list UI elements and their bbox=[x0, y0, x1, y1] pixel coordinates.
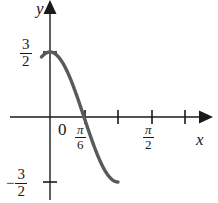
fraction-three-halves: 3 2 bbox=[20, 37, 32, 69]
fraction-numerator: π bbox=[143, 123, 154, 138]
y-tick-label-negative-three-halves: − 3 2 bbox=[6, 167, 27, 199]
fraction-denominator: 2 bbox=[15, 184, 27, 200]
minus-sign: − bbox=[6, 176, 14, 191]
y-axis-arrowhead bbox=[44, 0, 57, 14]
fraction-denominator: 2 bbox=[143, 138, 154, 152]
y-axis-label: y bbox=[36, 0, 44, 17]
function-graph-figure: y x 0 3 2 − 3 2 π 6 π 2 bbox=[0, 0, 218, 203]
plot-canvas bbox=[0, 0, 218, 203]
y-tick-label-three-halves: 3 2 bbox=[20, 37, 32, 69]
x-tick-label-pi-over-6: π 6 bbox=[75, 123, 86, 151]
x-axis-label: x bbox=[196, 131, 204, 148]
fraction-numerator: 3 bbox=[15, 167, 27, 184]
origin-label: 0 bbox=[58, 121, 67, 138]
x-axis-arrowhead bbox=[199, 111, 213, 124]
fraction-numerator: 3 bbox=[20, 37, 32, 54]
fraction-pi-over-6: π 6 bbox=[75, 123, 86, 151]
fraction-pi-over-2: π 2 bbox=[143, 123, 154, 151]
x-tick-label-pi-over-2: π 2 bbox=[143, 123, 154, 151]
fraction-three-halves-negative: 3 2 bbox=[15, 167, 27, 199]
fraction-denominator: 2 bbox=[20, 54, 32, 70]
fraction-numerator: π bbox=[75, 123, 86, 138]
fraction-denominator: 6 bbox=[75, 138, 86, 152]
